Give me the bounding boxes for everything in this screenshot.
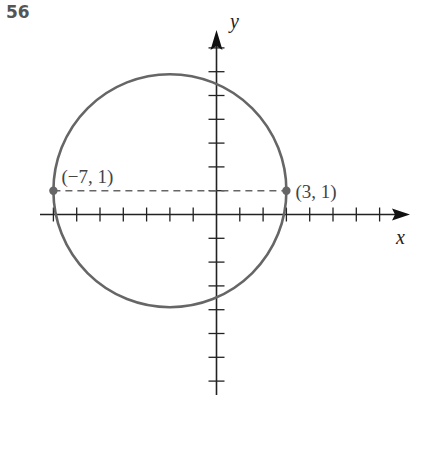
x-axis-label: x — [395, 226, 405, 248]
point-marker — [282, 187, 290, 195]
point-marker — [49, 187, 57, 195]
marked-points: (−7, 1)(3, 1) — [49, 166, 336, 203]
coordinate-plot: (−7, 1)(3, 1) x y — [0, 0, 439, 456]
point-label: (3, 1) — [295, 181, 336, 203]
figure: 56 (−7, 1)(3, 1) x y — [0, 0, 439, 456]
y-axis-label: y — [228, 10, 239, 33]
point-label: (−7, 1) — [61, 166, 113, 188]
